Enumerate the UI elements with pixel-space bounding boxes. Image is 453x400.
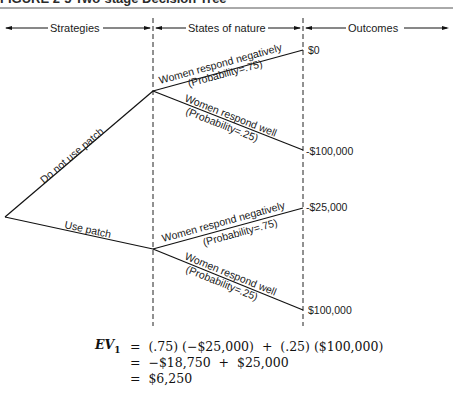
equation-line-3: = $6,250 xyxy=(130,371,192,386)
arrow-right-icon xyxy=(442,26,449,30)
strategy-label-do-not-use-patch: Do not use patch xyxy=(38,125,106,186)
arrow-left-icon xyxy=(5,26,12,30)
header-outcomes: Outcomes xyxy=(305,22,449,34)
equation-lhs: EV1 xyxy=(95,337,121,355)
header-states-label: States of nature xyxy=(188,22,266,34)
outcome-s2-negative: -$25,000 xyxy=(306,201,348,213)
arrow-left-icon xyxy=(155,26,162,30)
equation-line-1: = (.75) (−$25,000) + (.25) ($100,000) xyxy=(130,339,383,354)
outcome-s2-well: $100,000 xyxy=(308,304,352,316)
header-strategies-label: Strategies xyxy=(50,22,100,34)
equation-line-2: = −$18,750 + $25,000 xyxy=(130,355,289,370)
outcome-s1-well: -$100,000 xyxy=(306,145,353,157)
header-states-of-nature: States of nature xyxy=(155,22,301,34)
strategy-label-use-patch: Use patch xyxy=(64,218,113,240)
outcome-s1-negative: $0 xyxy=(308,44,320,56)
header-outcomes-label: Outcomes xyxy=(348,22,399,34)
ev-symbol: EV1 xyxy=(95,337,121,352)
arrow-left-icon xyxy=(305,26,312,30)
header-strategies: Strategies xyxy=(5,22,151,34)
arrow-right-icon xyxy=(144,26,151,30)
arrow-right-icon xyxy=(294,26,301,30)
